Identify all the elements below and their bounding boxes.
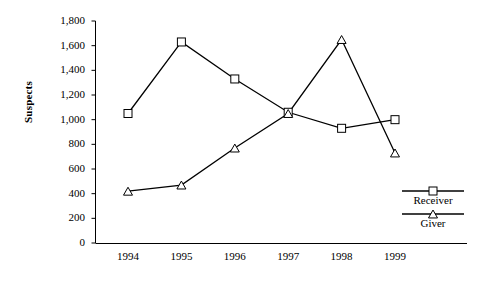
x-axis-tick-label: 1996 [207,250,263,262]
y-axis-tick-marks [92,21,96,243]
square-marker-icon [124,110,132,118]
x-axis-tick-label: 1994 [100,250,156,262]
x-axis-tick-label: 1997 [260,250,316,262]
legend-item-receiver: Receiver [392,186,474,209]
square-marker-icon [338,124,346,132]
legend-label-receiver: Receiver [392,194,474,207]
square-marker-icon [391,116,399,124]
chart-legend: Receiver Giver [392,186,474,232]
triangle-marker-icon [391,149,400,157]
line-chart: Suspects 1,8001,6001,4001,2001,000800600… [0,0,477,282]
legend-label-giver: Giver [392,217,474,230]
x-axis-tick-label: 1995 [153,250,209,262]
series-line-receiver [128,42,395,128]
series-line-giver [128,40,395,192]
x-axis-tick-label: 1998 [314,250,370,262]
triangle-marker-icon [337,36,346,44]
x-axis-tick-label: 1999 [367,250,423,262]
data-series-group [124,36,400,196]
legend-item-giver: Giver [392,209,474,232]
square-marker-icon [177,38,185,46]
square-marker-icon [231,75,239,83]
plot-area [0,0,477,282]
